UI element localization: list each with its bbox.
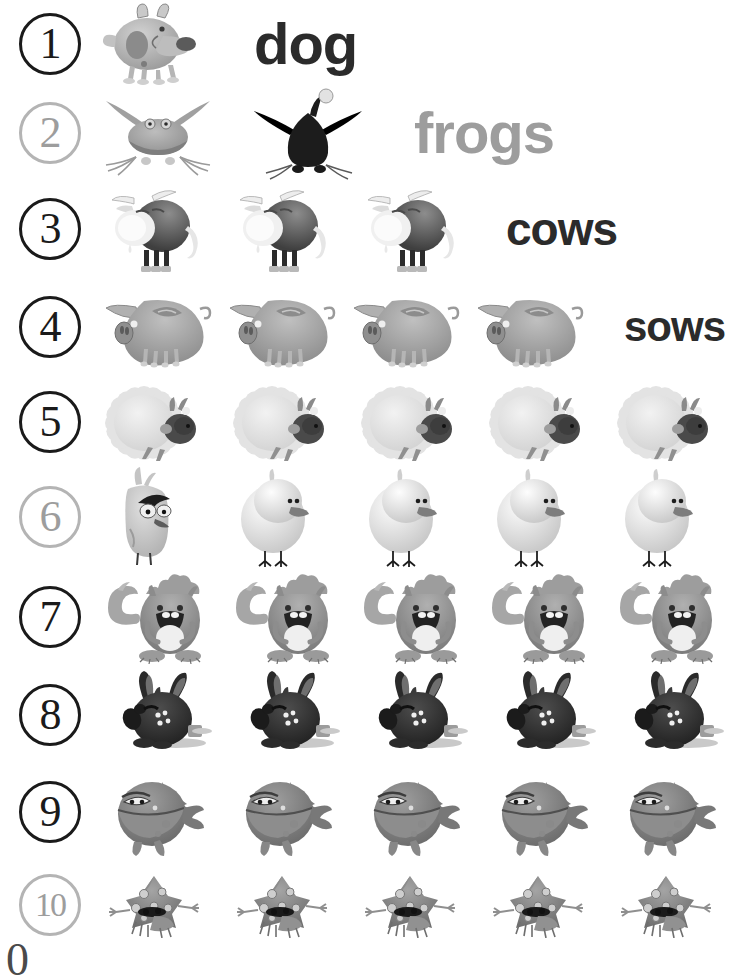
counting-row: 3cows [0, 180, 744, 278]
number-cell: 3 [0, 198, 100, 260]
animal-squirrel [100, 568, 228, 666]
animal-group-squirrel [100, 568, 740, 666]
animal-fish [228, 766, 356, 858]
animal-turtle [356, 872, 484, 938]
animal-fish [612, 766, 740, 858]
animal-group-fish [100, 766, 740, 858]
number-cell: 4 [0, 296, 100, 358]
number-circle-3: 3 [19, 198, 81, 260]
animal-sow [348, 283, 472, 371]
number-cell: 7 [0, 586, 100, 648]
animal-turtle [612, 872, 740, 938]
animal-fish [356, 766, 484, 858]
animal-bird [484, 467, 612, 567]
animal-sheep [484, 381, 612, 463]
animal-rabbit [612, 671, 740, 759]
animal-sow [224, 283, 348, 371]
animal-frog [100, 91, 250, 181]
counting-row: 1dog [0, 0, 744, 88]
animal-fish [100, 766, 228, 858]
animal-turtle [484, 872, 612, 938]
number-circle-4: 4 [19, 296, 81, 358]
animal-squirrel [484, 568, 612, 666]
number-cell: 6 [0, 486, 100, 548]
counting-row: 10 [0, 862, 744, 947]
animal-squirrel [612, 568, 740, 666]
animal-group-cow [100, 182, 484, 276]
animal-squirrel [356, 568, 484, 666]
animal-cow [228, 182, 356, 276]
animal-group-sow [100, 283, 596, 371]
animal-fish [484, 766, 612, 858]
counting-row: 5 [0, 375, 744, 468]
animal-rabbit [356, 671, 484, 759]
number-cell: 10 [0, 874, 100, 936]
word-label-dog: dog [254, 15, 357, 73]
counting-row: 4sows [0, 278, 744, 375]
animal-sow [100, 283, 224, 371]
clipped-bottom-glyph: 0 [6, 937, 29, 979]
number-cell: 9 [0, 781, 100, 843]
counting-row: 8 [0, 668, 744, 762]
number-cell: 2 [0, 102, 100, 164]
animal-group-turtle [100, 872, 740, 938]
animal-group-sheep [100, 381, 740, 463]
animal-rabbit [484, 671, 612, 759]
animal-sheep [612, 381, 740, 463]
number-circle-9: 9 [19, 781, 81, 843]
animal-sheep [356, 381, 484, 463]
number-circle-8: 8 [19, 684, 81, 746]
animal-group-rabbit [100, 671, 740, 759]
word-label-frogs: frogs [414, 104, 554, 162]
number-circle-5: 5 [19, 391, 81, 453]
animal-cow [356, 182, 484, 276]
animal-dog [100, 2, 228, 86]
animal-group-frog [100, 85, 400, 181]
animal-turtle [228, 872, 356, 938]
number-cell: 1 [0, 13, 100, 75]
animal-turtle [100, 872, 228, 938]
number-circle-6: 6 [19, 486, 81, 548]
animal-rabbit [228, 671, 356, 759]
number-circle-7: 7 [19, 586, 81, 648]
animal-cow [100, 182, 228, 276]
animal-sheep [228, 381, 356, 463]
counting-row: 9 [0, 762, 744, 862]
animal-sow [472, 283, 596, 371]
counting-row: 7 [0, 565, 744, 668]
counting-row: 6 [0, 468, 744, 565]
number-circle-1: 1 [19, 13, 81, 75]
animal-bird [100, 467, 228, 567]
animal-bird [356, 467, 484, 567]
animal-group-bird [100, 467, 740, 567]
animal-bird [612, 467, 740, 567]
word-label-cows: cows [506, 206, 617, 252]
animal-squirrel [228, 568, 356, 666]
animal-sheep [100, 381, 228, 463]
number-cell: 8 [0, 684, 100, 746]
animal-bird [228, 467, 356, 567]
animal-group-dog [100, 2, 228, 86]
counting-row: 2frogs [0, 85, 744, 180]
number-circle-10: 10 [19, 874, 81, 936]
animal-rabbit [100, 671, 228, 759]
animal-frog [250, 85, 400, 181]
number-cell: 5 [0, 391, 100, 453]
word-label-sows: sows [624, 306, 725, 348]
number-circle-2: 2 [19, 102, 81, 164]
